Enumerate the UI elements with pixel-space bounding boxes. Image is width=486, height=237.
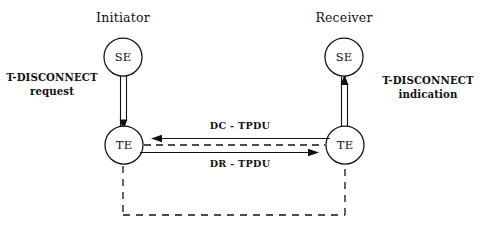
primitive-label-t-disconnect-indication-line2: indication bbox=[399, 88, 458, 100]
receiver-te-to-se-connector bbox=[341, 74, 349, 127]
left-arrowhead-icon bbox=[151, 135, 162, 143]
lower-dashed-return-path bbox=[123, 166, 345, 215]
node-label-initiator-se: SE bbox=[115, 51, 132, 65]
right-arrowhead-icon bbox=[308, 149, 319, 157]
message-label-dc-tpdu: DC - TPDU bbox=[210, 120, 270, 131]
primitive-label-t-disconnect-indication-line1: T-DISCONNECT bbox=[382, 74, 473, 86]
primitive-label-t-disconnect-request-line1: T-DISCONNECT bbox=[6, 71, 97, 83]
node-label-initiator-te: TE bbox=[116, 139, 132, 153]
node-label-receiver-te: TE bbox=[337, 139, 353, 153]
primitive-label-t-disconnect-request-line2: request bbox=[30, 85, 74, 97]
message-arrow-dc-tpdu bbox=[151, 135, 330, 143]
diagram-canvas bbox=[0, 0, 486, 237]
column-title-initiator: Initiator bbox=[96, 11, 150, 26]
tpdu-disconnect-diagram: Initiator Receiver SE TE SE TE T-DISCONN… bbox=[0, 0, 486, 237]
column-title-receiver: Receiver bbox=[315, 11, 372, 26]
initiator-se-to-te-connector bbox=[120, 76, 128, 131]
message-label-dr-tpdu: DR - TPDU bbox=[210, 158, 271, 169]
message-arrow-dr-tpdu bbox=[140, 149, 319, 157]
node-label-receiver-se: SE bbox=[336, 51, 353, 65]
